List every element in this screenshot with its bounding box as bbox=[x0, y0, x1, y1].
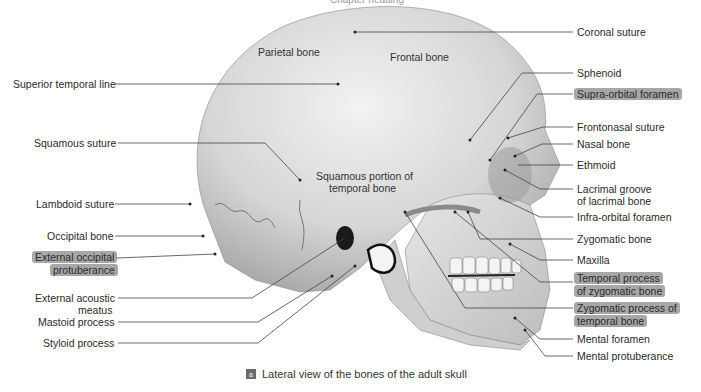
label-zygomatic-process-line1: Zygomatic process of bbox=[574, 302, 680, 314]
label-superior-temporal-line: Superior temporal line bbox=[13, 78, 116, 90]
label-temporal-process-line2: of zygomatic bone bbox=[574, 285, 665, 297]
label-styloid-process: Styloid process bbox=[43, 337, 114, 349]
label-external-acoustic-line2: meatus bbox=[78, 304, 112, 316]
label-nasal-bone: Nasal bone bbox=[577, 138, 630, 150]
label-parietal-bone: Parietal bone bbox=[258, 46, 320, 58]
caption-text: Lateral view of the bones of the adult s… bbox=[262, 368, 467, 380]
label-zygomatic-bone: Zygomatic bone bbox=[577, 233, 652, 245]
label-mastoid-process: Mastoid process bbox=[38, 316, 114, 328]
highlight-zygomatic-process-2: temporal bone bbox=[574, 315, 647, 327]
label-occipital-bone: Occipital bone bbox=[47, 230, 114, 242]
label-frontonasal-suture: Frontonasal suture bbox=[577, 121, 665, 133]
label-mental-protuberance: Mental protuberance bbox=[577, 350, 673, 362]
label-coronal-suture: Coronal suture bbox=[577, 26, 646, 38]
label-supraorbital-foramen: Supra-orbital foramen bbox=[574, 88, 682, 100]
highlight-temporal-process-2: of zygomatic bone bbox=[574, 285, 665, 297]
label-lacrimal-line1: Lacrimal groove bbox=[577, 183, 652, 195]
label-lambdoid-suture: Lambdoid suture bbox=[36, 198, 114, 210]
highlight-protuberance: protuberance bbox=[50, 264, 118, 276]
label-ethmoid: Ethmoid bbox=[577, 159, 616, 171]
label-squamous-portion-line2: temporal bone bbox=[329, 182, 396, 194]
label-zygomatic-process-line2: temporal bone bbox=[574, 315, 647, 327]
label-maxilla: Maxilla bbox=[577, 254, 610, 266]
highlight-zygomatic-process-1: Zygomatic process of bbox=[574, 302, 680, 314]
label-sphenoid: Sphenoid bbox=[577, 67, 621, 79]
highlight-external-occipital: External occipital bbox=[32, 251, 117, 263]
caption-tag: a bbox=[246, 369, 256, 379]
label-external-occipital-line2: protuberance bbox=[50, 264, 118, 276]
skull-lateral-view-figure: Chapter heading bbox=[0, 0, 701, 392]
label-squamous-suture: Squamous suture bbox=[34, 137, 116, 149]
label-temporal-process-line1: Temporal process bbox=[574, 272, 663, 284]
label-external-acoustic-line1: External acoustic bbox=[35, 292, 115, 304]
highlight-temporal-process-1: Temporal process bbox=[574, 272, 663, 284]
label-squamous-portion-line1: Squamous portion of bbox=[316, 170, 413, 182]
figure-caption: a Lateral view of the bones of the adult… bbox=[246, 368, 467, 380]
label-mental-foramen: Mental foramen bbox=[577, 333, 650, 345]
label-lacrimal-line2: of lacrimal bone bbox=[577, 195, 651, 207]
label-frontal-bone: Frontal bone bbox=[390, 51, 449, 63]
label-infraorbital-foramen: Infra-orbital foramen bbox=[577, 211, 672, 223]
label-external-occipital-line1: External occipital bbox=[32, 251, 117, 263]
highlight-supraorbital: Supra-orbital foramen bbox=[574, 88, 682, 100]
